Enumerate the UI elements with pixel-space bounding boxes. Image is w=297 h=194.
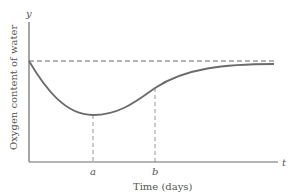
b-label: b [152,166,158,177]
y-symbol: y [25,8,32,19]
y-axis-title: Oxygen content of water [8,25,19,150]
a-label: a [90,166,96,177]
oxygen-curve [29,61,274,115]
x-axis-title: Time (days) [133,181,192,192]
oxygen-sag-diagram: y t a b Time (days) Oxygen content of wa… [0,0,297,194]
t-symbol: t [282,157,287,168]
